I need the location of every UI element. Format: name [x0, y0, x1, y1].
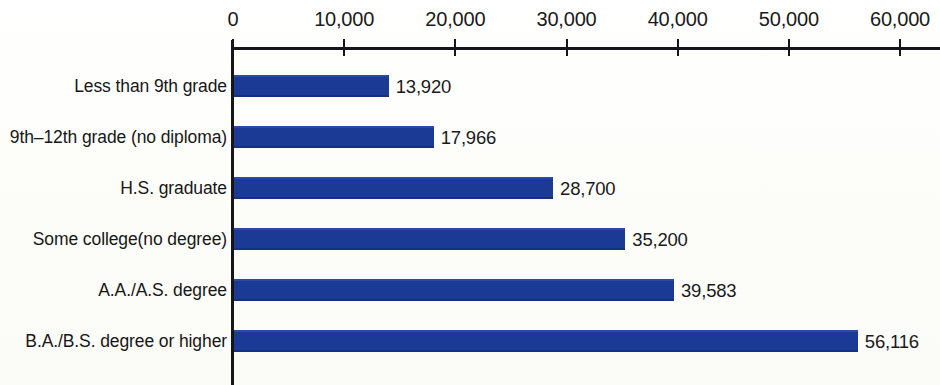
- bar-shadow: [234, 350, 858, 352]
- bar-value-label: 56,116: [865, 331, 919, 353]
- y-axis-category-label: Less than 9th grade: [0, 76, 227, 97]
- bar: [234, 279, 674, 301]
- x-axis-tick-label: 0: [228, 8, 239, 31]
- y-axis-category-label: H.S. graduate: [0, 178, 227, 199]
- bar-highlight: [234, 330, 858, 332]
- bar-highlight: [234, 126, 434, 128]
- x-axis-tick-label: 60,000: [870, 8, 930, 31]
- x-axis-tick-label: 40,000: [648, 8, 708, 31]
- y-axis-category-label: A.A./A.S. degree: [0, 280, 227, 301]
- x-axis-tick: [343, 39, 345, 56]
- bar-shadow: [234, 197, 553, 199]
- y-axis-category-label: Some college(no degree): [0, 229, 227, 250]
- x-axis-tick: [899, 39, 901, 56]
- bar-value-label: 35,200: [632, 229, 687, 251]
- bar-highlight: [234, 75, 389, 77]
- bar: [234, 228, 625, 250]
- bar-shadow: [234, 146, 434, 148]
- x-axis-tick-label: 10,000: [314, 8, 374, 31]
- bar-shadow: [234, 248, 625, 250]
- bar-shadow: [234, 95, 389, 97]
- x-axis-line: [233, 47, 940, 50]
- bar-value-label: 28,700: [560, 178, 615, 200]
- x-axis-tick: [788, 39, 790, 56]
- bar-chart: 010,00020,00030,00040,00050,00060,000 Le…: [0, 0, 940, 385]
- bar-highlight: [234, 177, 553, 179]
- bar-value-label: 13,920: [396, 76, 451, 98]
- bar-highlight: [234, 279, 674, 281]
- bar: [234, 126, 434, 148]
- y-axis-category-label: B.A./B.S. degree or higher: [0, 331, 227, 352]
- x-axis-tick: [566, 39, 568, 56]
- bar: [234, 177, 553, 199]
- y-axis-category-label: 9th–12th grade (no diploma): [0, 127, 227, 148]
- x-axis-tick: [454, 39, 456, 56]
- x-axis-tick-label: 30,000: [537, 8, 597, 31]
- bar-shadow: [234, 299, 674, 301]
- x-axis-tick-label: 50,000: [759, 8, 819, 31]
- bar-highlight: [234, 228, 625, 230]
- x-axis-tick: [232, 39, 234, 56]
- bar: [234, 75, 389, 97]
- bar: [234, 330, 858, 352]
- bar-value-label: 17,966: [441, 127, 496, 149]
- bar-value-label: 39,583: [681, 280, 736, 302]
- x-axis-tick-label: 20,000: [425, 8, 485, 31]
- x-axis-tick: [677, 39, 679, 56]
